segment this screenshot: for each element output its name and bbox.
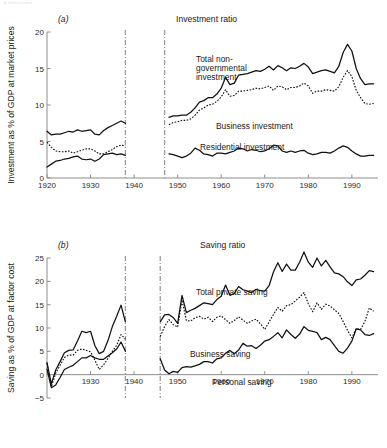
panel-letter: (a)	[58, 14, 69, 24]
x-tick-label: 1930	[82, 181, 100, 190]
y-axis-title: Investment as % of GDP at market prices	[6, 26, 16, 183]
x-tick-label: 1940	[125, 181, 143, 190]
y-tick-label: 10	[35, 324, 44, 333]
x-tick-label: 1930	[82, 377, 100, 386]
y-tick-label: 15	[35, 65, 44, 74]
series-line	[47, 153, 125, 167]
series-annotation: Business saving	[190, 349, 251, 359]
y-tick-label: 5	[40, 138, 45, 147]
series-line	[47, 142, 125, 154]
x-tick-label: 1980	[299, 377, 317, 386]
y-tick-label: 10	[35, 101, 44, 110]
x-tick-label: 1990	[343, 377, 361, 386]
x-tick-label: 1990	[343, 181, 361, 190]
x-tick-label: 1950	[169, 181, 187, 190]
panel-letter: (b)	[58, 240, 69, 250]
series-annotation: Total private saving	[196, 287, 268, 297]
y-tick-label: 15	[35, 301, 44, 310]
investment-ratio-chart: 0510152019201930194019501960197019801990…	[0, 6, 387, 216]
y-axis-title: Saving as % of GDP at factor cost	[6, 263, 16, 393]
y-tick-label: 25	[35, 254, 44, 263]
series-line	[47, 305, 125, 384]
series-line	[47, 121, 125, 135]
series-annotation: investment	[196, 72, 237, 82]
x-tick-label: 1960	[212, 181, 230, 190]
running-head: 6 Institutions	[4, 0, 32, 5]
series-annotation: Residential investment	[200, 142, 285, 152]
y-tick-label: 20	[35, 28, 44, 37]
panel-saving-ratio: −505101520251930194019501960197019801990…	[0, 232, 387, 448]
series-annotation: Personal saving	[212, 377, 272, 387]
panel-title: Investment ratio	[176, 14, 237, 24]
panel-title: Saving ratio	[200, 240, 246, 250]
x-tick-label: 1940	[125, 377, 143, 386]
x-tick-label: 1980	[299, 181, 317, 190]
figure-page: 6 Institutions 0510152019201930194019501…	[0, 0, 387, 448]
series-line	[160, 293, 373, 338]
y-tick-label: 5	[40, 347, 45, 356]
x-tick-label: 1970	[256, 181, 274, 190]
x-tick-label: 1950	[169, 377, 187, 386]
y-tick-label: 0	[40, 371, 45, 380]
x-tick-label: 1920	[38, 181, 56, 190]
y-tick-label: 20	[35, 277, 44, 286]
saving-ratio-chart: −505101520251930194019501960197019801990…	[0, 232, 387, 448]
y-tick-label: −5	[35, 394, 45, 403]
series-annotation: Business investment	[216, 121, 293, 131]
panel-investment-ratio: 0510152019201930194019501960197019801990…	[0, 6, 387, 216]
